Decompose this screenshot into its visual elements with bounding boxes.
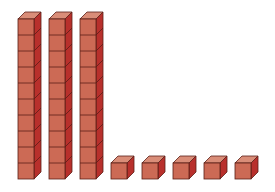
unit-cube (111, 156, 134, 179)
base-ten-blocks-diagram (0, 0, 275, 192)
unit-cube (204, 156, 227, 179)
tens-rod (18, 12, 41, 179)
unit-cube (235, 156, 258, 179)
tens-rod (80, 12, 103, 179)
tens-rod (49, 12, 72, 179)
unit-cube (173, 156, 196, 179)
unit-cube (142, 156, 165, 179)
